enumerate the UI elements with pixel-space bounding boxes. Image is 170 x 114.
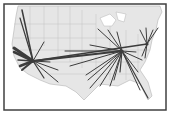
hub-west [31, 59, 34, 62]
hub-east [145, 42, 148, 45]
map-canvas [0, 0, 170, 114]
flow-map [0, 0, 170, 114]
hub-central [120, 49, 123, 52]
